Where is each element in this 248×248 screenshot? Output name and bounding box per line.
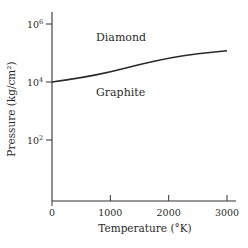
phase-boundary-curve [52,51,227,82]
diamond-region-label: Diamond [96,31,146,44]
x-axis-label: Temperature (°K) [98,222,191,234]
x-tick-label: 1000 [98,207,122,218]
graphite-region-label: Graphite [96,86,145,99]
y-tick-label: 104 [27,76,43,88]
x-ticks: 0100020003000 [49,195,239,218]
y-axis-label: Pressure (kg/cm²) [5,61,17,156]
x-tick-label: 0 [49,207,55,218]
phase-diagram-chart: 102104106 0100020003000 Diamond Graphite… [0,0,248,248]
y-tick-label: 106 [27,18,43,30]
y-ticks: 102104106 [27,18,52,146]
y-tick-label: 102 [27,134,43,146]
x-tick-label: 2000 [157,207,181,218]
x-tick-label: 3000 [215,207,239,218]
